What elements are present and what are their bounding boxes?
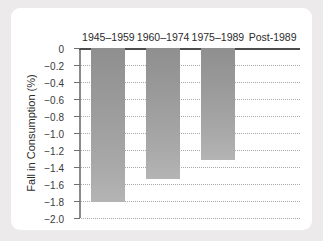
y-axis-tick: −2.0 xyxy=(74,218,80,219)
bar xyxy=(91,48,125,202)
y-axis-tick-label: −1.0 xyxy=(44,129,64,140)
y-axis-tick: −1.0 xyxy=(74,133,80,134)
y-axis-tick: −0.2 xyxy=(74,65,80,66)
bar xyxy=(146,48,180,179)
y-axis-tick: −0.8 xyxy=(74,116,80,117)
y-axis-tick: 0 xyxy=(74,48,80,49)
y-axis-tick-label: −2.0 xyxy=(44,214,64,225)
y-axis-tick: −1.8 xyxy=(74,201,80,202)
y-axis-tick-label: −0.6 xyxy=(44,95,64,106)
y-axis-tick-label: −0.2 xyxy=(44,61,64,72)
y-axis-tick-label: −1.6 xyxy=(44,180,64,191)
plot-area: 0−0.2−0.4−0.6−0.8−1.0−1.2−1.4−1.6−1.8−2.… xyxy=(81,48,300,218)
chart-figure: Fall in Consumption (%) 0−0.2−0.4−0.6−0.… xyxy=(11,8,312,230)
y-axis-tick-label: −1.2 xyxy=(44,146,64,157)
category-label: 1960–1974 xyxy=(137,31,190,43)
y-axis-title: Fall in Consumption (%) xyxy=(25,48,41,218)
y-axis-tick: −1.2 xyxy=(74,150,80,151)
y-axis-tick: −1.6 xyxy=(74,184,80,185)
y-axis-tick: −0.6 xyxy=(74,99,80,100)
category-label: Post-1989 xyxy=(249,31,297,43)
y-axis-tick-label: −1.8 xyxy=(44,197,64,208)
y-axis-tick-label: −0.4 xyxy=(44,78,64,89)
y-axis-tick: −1.4 xyxy=(74,167,80,168)
bar xyxy=(201,48,235,160)
y-axis-tick-label: −1.4 xyxy=(44,163,64,174)
category-label: 1975–1989 xyxy=(192,31,245,43)
y-axis-tick: −0.4 xyxy=(74,82,80,83)
category-label: 1945–1959 xyxy=(82,31,135,43)
y-axis-tick-label: 0 xyxy=(58,44,64,55)
gridline xyxy=(81,218,300,219)
y-axis-tick-label: −0.8 xyxy=(44,112,64,123)
